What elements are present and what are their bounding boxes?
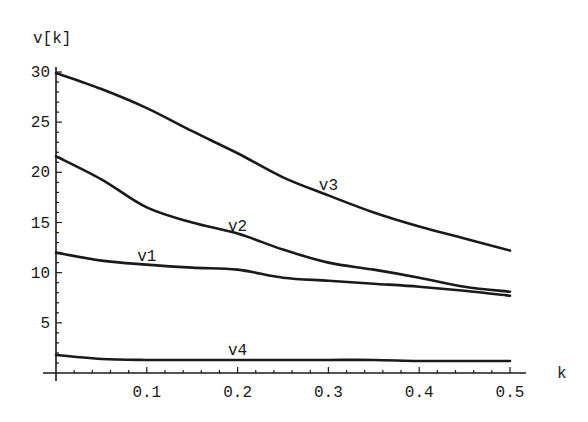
y-axis-label: v[k] [33,30,71,48]
y-tick-label: 15 [31,215,50,233]
x-tick-label: 0.4 [405,384,434,402]
series-label-v4: v4 [228,342,247,360]
ticks: 0.10.20.30.40.551015202530 [31,64,525,402]
y-tick-label: 20 [31,164,50,182]
y-tick-label: 10 [31,265,50,283]
series-v4-line [56,355,510,361]
series-label-v3: v3 [319,177,338,195]
series-v3-line [56,73,510,251]
x-tick-label: 0.2 [223,384,252,402]
x-tick-label: 0.1 [132,384,161,402]
series-label-v1: v1 [137,248,156,266]
y-tick-label: 30 [31,64,50,82]
y-tick-label: 25 [31,114,50,132]
line-chart: 0.10.20.30.40.551015202530 v1v2v3v4 v[k]… [0,0,588,422]
axes [43,67,526,381]
y-tick-label: 5 [40,315,50,333]
x-tick-label: 0.5 [496,384,525,402]
series-v1-line [56,253,510,296]
curves [56,73,510,361]
x-axis-label: k [557,365,567,383]
series-label-v2: v2 [228,218,247,236]
x-tick-label: 0.3 [314,384,343,402]
